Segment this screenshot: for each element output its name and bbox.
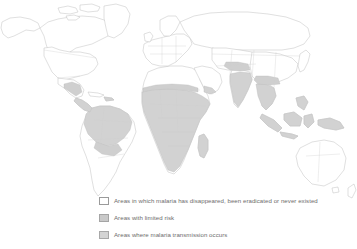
- land-alaska: [1, 17, 40, 38]
- legend-item-no-malaria: Areas in which malaria has disappeared, …: [99, 193, 349, 209]
- land-usa: [44, 47, 98, 80]
- legend-swatch-no-malaria: [99, 197, 109, 205]
- zone-sumatra: [260, 114, 282, 132]
- zone-madagascar: [198, 134, 208, 158]
- land-greenland: [104, 4, 130, 38]
- land-cuba: [88, 92, 104, 97]
- zone-sub-saharan-africa: [142, 89, 210, 172]
- zone-philippines: [296, 96, 308, 110]
- legend-label-transmission: Areas where malaria transmission occurs: [114, 231, 227, 239]
- world-malaria-map: Areas in which malaria has disappeared, …: [0, 0, 357, 249]
- land-scandinavia: [160, 16, 180, 36]
- legend-label-limited-risk: Areas with limited risk: [114, 214, 174, 222]
- legend-item-limited-risk: Areas with limited risk: [99, 210, 349, 226]
- land-arctic-islands-1: [58, 6, 78, 14]
- land-russia: [180, 12, 310, 50]
- legend-item-transmission: Areas where malaria transmission occurs: [99, 227, 349, 243]
- map-legend: Areas in which malaria has disappeared, …: [99, 193, 349, 244]
- land-japan: [298, 50, 310, 72]
- land-arctic-islands-2: [80, 4, 100, 12]
- zone-papua-new-guinea: [318, 118, 344, 130]
- zone-java: [280, 132, 298, 139]
- land-australia: [296, 140, 346, 186]
- zone-india: [230, 72, 252, 107]
- zone-southeast-asia: [256, 84, 276, 110]
- legend-swatch-transmission: [99, 231, 109, 239]
- zone-sulawesi: [304, 114, 314, 128]
- zone-borneo: [284, 112, 302, 126]
- legend-swatch-limited-risk: [99, 214, 109, 222]
- land-new-zealand: [348, 184, 356, 198]
- legend-label-no-malaria: Areas in which malaria has disappeared, …: [114, 197, 318, 205]
